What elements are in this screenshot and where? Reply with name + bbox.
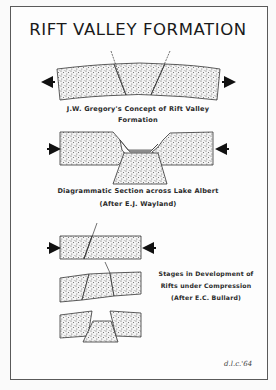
caption-bullard-line2: Rifts under Compression <box>156 280 256 292</box>
caption-bullard-line3: (After E.C. Bullard) <box>156 292 256 304</box>
rift-floor-sediment <box>120 140 158 152</box>
caption-wayland-line2: (After E.J. Wayland) <box>40 198 236 211</box>
caption-wayland-line1: Diagrammatic Section across Lake Albert <box>40 185 236 198</box>
bullard-stage-3 <box>60 311 141 342</box>
caption-wayland: Diagrammatic Section across Lake Albert … <box>40 185 236 211</box>
caption-gregory-line2: Formation <box>40 115 236 126</box>
artist-signature: d.l.c.'64 <box>224 360 252 368</box>
block-right <box>84 236 141 259</box>
wayland-diagram <box>47 132 229 184</box>
gregory-diagram <box>47 51 230 100</box>
fault-line <box>105 262 110 273</box>
caption-gregory-line1: J.W. Gregory's Concept of Rift Valley <box>40 104 236 115</box>
block-right <box>110 272 141 296</box>
block-right <box>152 132 213 165</box>
caption-gregory: J.W. Gregory's Concept of Rift Valley Fo… <box>40 104 236 126</box>
caption-bullard-line1: Stages in Development of <box>156 268 256 280</box>
block-left <box>60 132 128 165</box>
caption-bullard: Stages in Development of Rifts under Com… <box>156 268 256 304</box>
bullard-stage-2 <box>60 262 141 302</box>
block-left <box>57 64 126 100</box>
bullard-stage-1 <box>47 223 156 259</box>
